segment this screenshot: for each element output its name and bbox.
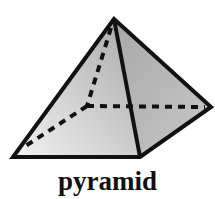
diagram-title: pyramid [0, 166, 215, 196]
